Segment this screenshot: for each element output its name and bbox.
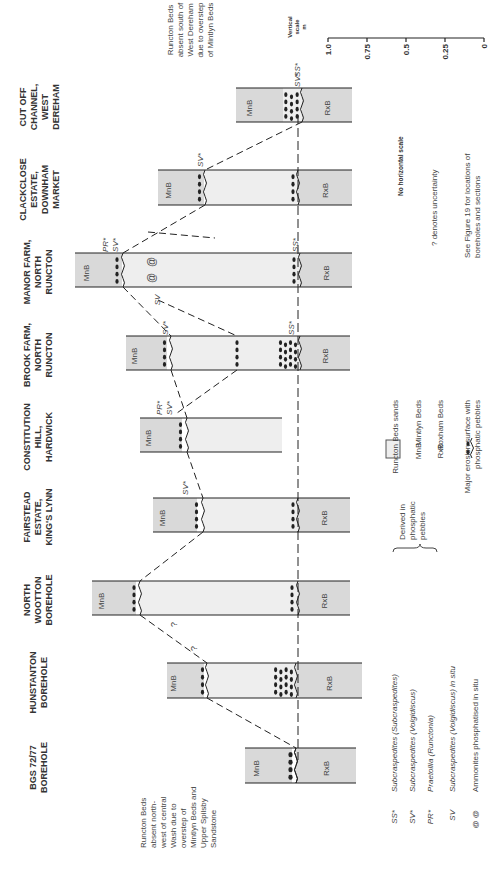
svg-text:Roxham Beds: Roxham Beds bbox=[436, 400, 445, 450]
note-runcton-absent-south: Runcton Bedsabsent south ofWest Derehamd… bbox=[166, 2, 215, 58]
svg-text:ESTATE,: ESTATE, bbox=[29, 171, 39, 208]
column-title-brook-farm: BROOK FARM,NORTHRUNCTON bbox=[22, 323, 54, 387]
column-bgs-72-77: MnBRxB bbox=[245, 748, 356, 783]
svg-text:SV*: SV* bbox=[181, 480, 190, 495]
svg-text:HUNSTANTON: HUNSTANTON bbox=[28, 651, 38, 713]
correlation-line bbox=[177, 370, 237, 413]
svg-text:HARDWICK: HARDWICK bbox=[44, 412, 54, 462]
rxb-label: RxB bbox=[321, 183, 330, 198]
svg-text:DOWNHAM: DOWNHAM bbox=[40, 165, 50, 214]
brace-note: Derived inphosphaticpebbles bbox=[398, 501, 427, 540]
vertical-scale: 1.00.750.50.250Verticalscalem bbox=[287, 16, 489, 60]
svg-text:of Mintlyn Beds: of Mintlyn Beds bbox=[206, 3, 215, 58]
runcton-beds-unit bbox=[187, 418, 282, 452]
svg-text:KING'S LYNN: KING'S LYNN bbox=[44, 489, 54, 546]
column-brook-farm: MnBRxB bbox=[126, 336, 350, 370]
mnb-label: MnB bbox=[245, 100, 254, 116]
mnb-label: MnB bbox=[130, 348, 139, 364]
column-title-clackclose: CLACKCLOSEESTATE,DOWNHAMMARKET bbox=[18, 158, 61, 221]
fossil-label: Praetollia (Runctonia) bbox=[426, 715, 435, 792]
svg-text:SV: SV bbox=[448, 809, 457, 820]
uncertainty-note: ? denotes uncertainty bbox=[430, 170, 439, 247]
svg-text:west of central: west of central bbox=[159, 796, 168, 849]
svg-text:SS*: SS* bbox=[287, 320, 296, 335]
svg-text:Subcraspedites (Volgidiscus): Subcraspedites (Volgidiscus) bbox=[408, 689, 417, 792]
svg-text:CONSTITUTION: CONSTITUTION bbox=[22, 403, 32, 471]
legend-roxham: Roxham Beds bbox=[436, 400, 445, 450]
fossil-label: Subcraspedites (Volgidiscus) in situ bbox=[448, 665, 457, 792]
ammonite-icon: @ bbox=[146, 273, 157, 283]
fossil-marker: SV* bbox=[161, 320, 170, 335]
svg-text:Sandstone: Sandstone bbox=[209, 809, 218, 848]
column-cut-off-channel: MnBRxB bbox=[236, 88, 352, 122]
rxb-label: RxB bbox=[320, 593, 329, 608]
svg-text:HILL,: HILL, bbox=[33, 426, 43, 449]
rxb-label: RxB bbox=[320, 510, 329, 525]
svg-text:NORTH: NORTH bbox=[22, 584, 32, 616]
column-constitution-hill: MnB bbox=[140, 418, 282, 452]
svg-text:Runcton Beds: Runcton Beds bbox=[166, 5, 175, 55]
fossil-marker: SS* bbox=[287, 320, 296, 335]
svg-text:absent north-: absent north- bbox=[149, 801, 158, 848]
svg-text:MnB: MnB bbox=[97, 593, 106, 609]
fossil-marker: SS* bbox=[291, 237, 300, 252]
mnb-label: MnB bbox=[252, 760, 261, 776]
svg-text:SS*: SS* bbox=[390, 809, 399, 824]
svg-text:SS*: SS* bbox=[291, 237, 300, 252]
svg-text:MnB: MnB bbox=[144, 430, 153, 446]
svg-text:CHANNEL,: CHANNEL, bbox=[29, 84, 39, 131]
rxb-label: RxB bbox=[325, 676, 334, 691]
svg-text:BOREHOLE: BOREHOLE bbox=[39, 742, 49, 793]
fossil-marker: SV* bbox=[196, 152, 205, 167]
rxb-label: RxB bbox=[321, 348, 330, 363]
svg-text:scale: scale bbox=[294, 19, 300, 35]
svg-text:RxB: RxB bbox=[320, 593, 329, 608]
column-title-bgs-72-77: BGS 72/77BOREHOLE bbox=[28, 742, 49, 793]
fossil-key: SS* bbox=[390, 809, 399, 824]
column-title-hunstanton: HUNSTANTONBOREHOLE bbox=[28, 651, 49, 713]
svg-text:Vertical: Vertical bbox=[287, 16, 293, 38]
correlation-line bbox=[207, 698, 296, 748]
svg-text:Runcton Beds sands: Runcton Beds sands bbox=[391, 400, 400, 474]
scale-tick-label: 0 bbox=[480, 43, 489, 48]
see-figure-note: See Figure 19 for locations ofboreholes … bbox=[463, 153, 482, 258]
svg-text:CLACKCLOSE: CLACKCLOSE bbox=[18, 158, 28, 221]
fossil-label: Ammonites phosphatised in situ bbox=[471, 679, 480, 792]
fossil-label: Subcraspedites (Volgidiscus) bbox=[408, 689, 417, 792]
runcton-beds-unit bbox=[203, 498, 298, 532]
column-hunstanton: MnBRxB bbox=[167, 663, 362, 698]
svg-text:MnB: MnB bbox=[82, 265, 91, 281]
svg-text:pebbles: pebbles bbox=[418, 512, 427, 540]
correlation-line bbox=[205, 122, 302, 170]
svg-text:? denotes uncertainty: ? denotes uncertainty bbox=[430, 170, 439, 247]
mnb-label: MnB bbox=[164, 182, 173, 198]
scale-tick-label: 1.0 bbox=[324, 43, 333, 55]
runcton-beds-unit bbox=[205, 170, 298, 205]
scale-title: Verticalscalem bbox=[287, 16, 307, 38]
correlation-line bbox=[148, 232, 215, 238]
svg-text:PR*: PR* bbox=[155, 400, 164, 415]
svg-text:West Dereham: West Dereham bbox=[186, 3, 195, 57]
svg-text:RUNCTON: RUNCTON bbox=[44, 333, 54, 378]
legend-erosion: Major erosion surface withphosphatic peb… bbox=[463, 400, 482, 493]
legend: Runcton Beds sandsMnBMintlyn BedsRxBRoxh… bbox=[386, 400, 482, 493]
legend-runcton: Runcton Beds sands bbox=[391, 400, 400, 474]
svg-text:Wash due to: Wash due to bbox=[169, 803, 178, 848]
svg-text:RxB: RxB bbox=[325, 676, 334, 691]
borehole-columns: MnBRxBMnBRxBMnBRxBMnBRxBMnBMnBRxBMnBRxBM… bbox=[75, 88, 362, 783]
svg-text:0.5: 0.5 bbox=[402, 43, 411, 55]
svg-text:Derived in: Derived in bbox=[398, 504, 407, 540]
svg-text:CUT OFF: CUT OFF bbox=[18, 87, 28, 126]
svg-text:Praetollia (Runctonia): Praetollia (Runctonia) bbox=[426, 715, 435, 792]
svg-text:SV*: SV* bbox=[408, 809, 417, 824]
rxb-label: RxB bbox=[323, 100, 332, 115]
svg-text:0.75: 0.75 bbox=[363, 43, 372, 59]
column-title-manor-farm: MANOR FARM,NORTHRUNCTON bbox=[22, 240, 54, 305]
svg-text:BOREHOLE: BOREHOLE bbox=[39, 657, 49, 708]
mnb-label: MnB bbox=[169, 675, 178, 691]
svg-text:SV*: SV* bbox=[165, 400, 174, 415]
column-clackclose: MnBRxB bbox=[158, 170, 352, 205]
svg-text:MnB: MnB bbox=[169, 675, 178, 691]
svg-text:SV*: SV* bbox=[161, 320, 170, 335]
column-fairstead: MnBRxB bbox=[153, 498, 350, 532]
